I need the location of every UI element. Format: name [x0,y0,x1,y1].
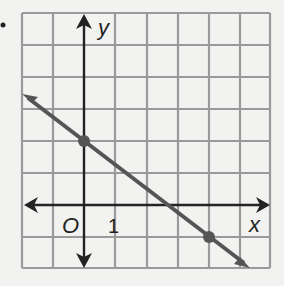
bullet-marker [1,23,6,28]
grid [22,13,270,268]
graphed-line [22,94,250,268]
origin-label: O [62,213,79,238]
tick-label-1: 1 [108,215,119,237]
x-axis-label: x [248,212,261,237]
coordinate-graph: y x O 1 [0,0,284,286]
point-y-intercept [78,135,90,147]
y-axis-label: y [96,15,111,40]
point-4-neg1 [203,231,215,243]
